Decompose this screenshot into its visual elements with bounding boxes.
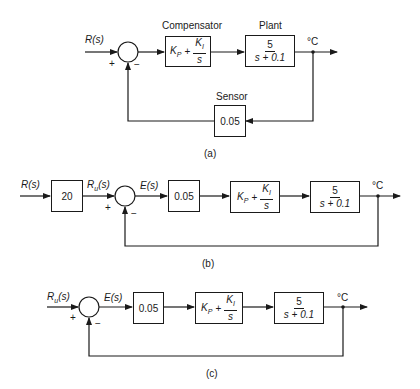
compensator-block: KP + KIs [165, 36, 211, 67]
ru-label: Ru(s) [87, 180, 110, 194]
minus-sign: − [95, 319, 101, 329]
kp-symbol: K [237, 191, 244, 202]
ki-subscript: I [269, 189, 271, 196]
sensor-title: Sensor [216, 92, 248, 102]
ki-symbol: K [226, 294, 233, 305]
sensor-gain-block: 0.05 [133, 292, 164, 324]
sensor-block: 0.05 [214, 105, 246, 137]
compensator-title: Compensator [162, 21, 222, 31]
plant-numerator: 5 [265, 40, 275, 52]
plus-sign: + [70, 313, 76, 323]
ru-arg: (s) [98, 179, 110, 190]
plant-denominator: s + 0.1 [320, 198, 350, 209]
ki-subscript: I [202, 43, 204, 50]
minus-sign: − [134, 60, 140, 70]
sensor-gain: 0.05 [220, 116, 239, 127]
output-label: °C [307, 37, 318, 47]
kp-symbol: K [170, 45, 177, 56]
prefilter-block: 20 [51, 180, 83, 212]
kp-subscript: P [177, 51, 182, 58]
caption-c: (c) [206, 369, 218, 379]
caption-b: (b) [202, 259, 214, 269]
ki-denominator: s [264, 200, 269, 211]
kp-subscript: P [208, 308, 213, 315]
plant-numerator: 5 [294, 297, 304, 309]
kp-subscript: P [244, 197, 249, 204]
prefilter-gain: 20 [61, 191, 72, 202]
plus-symbol: + [215, 303, 221, 314]
sensor-gain-block: 0.05 [168, 180, 200, 212]
error-label: E(s) [104, 293, 122, 303]
sensor-gain: 0.05 [139, 303, 158, 314]
sensor-gain: 0.05 [174, 191, 193, 202]
ki-subscript: I [233, 300, 235, 307]
compensator-block: KP + KIs [195, 292, 243, 324]
caption-a: (a) [204, 149, 216, 159]
plant-denominator: s + 0.1 [284, 309, 314, 320]
plus-symbol: + [184, 46, 190, 57]
ki-symbol: K [195, 37, 202, 48]
plus-sign: + [105, 203, 111, 213]
input-label-r: R(s) [85, 35, 104, 45]
ru-arg: (s) [58, 291, 70, 302]
ru-label: Ru(s) [47, 292, 70, 306]
input-label-r: R(s) [21, 180, 40, 190]
plant-title: Plant [259, 21, 282, 31]
plant-block: 5s + 0.1 [310, 181, 360, 213]
plus-symbol: + [251, 192, 257, 203]
kp-symbol: K [201, 302, 208, 313]
minus-sign: − [131, 209, 137, 219]
output-label: °C [337, 293, 348, 303]
ki-denominator: s [228, 311, 233, 322]
compensator-block: KP + KIs [230, 181, 280, 213]
plant-denominator: s + 0.1 [255, 52, 285, 63]
plant-block: 5s + 0.1 [274, 292, 324, 324]
ki-denominator: s [197, 54, 202, 65]
plus-sign: + [109, 59, 115, 69]
plant-numerator: 5 [330, 186, 340, 198]
error-label: E(s) [140, 181, 158, 191]
plant-block: 5s + 0.1 [245, 35, 295, 67]
ki-symbol: K [262, 183, 269, 194]
output-label: °C [372, 181, 383, 191]
